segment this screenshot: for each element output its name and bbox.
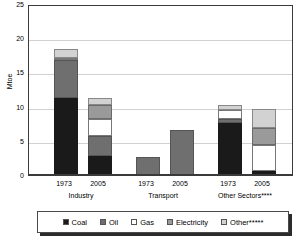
x-label-transport-2005: 2005 <box>160 180 200 187</box>
segment-electricity <box>88 105 112 119</box>
plot-area <box>28 5 293 176</box>
legend-label-gas: Gas <box>140 218 154 227</box>
legend-label-coal: Coal <box>72 218 87 227</box>
bar-series-container <box>29 6 292 175</box>
segment-gas <box>252 145 276 171</box>
legend-swatch-gas-icon <box>131 219 137 225</box>
legend-item-coal[interactable]: Coal <box>63 218 87 227</box>
x-group-other-sectors: Other Sectors**** <box>190 192 300 199</box>
segment-gas <box>54 58 78 61</box>
segment-oil <box>136 157 160 175</box>
legend-label-other: Other***** <box>230 218 263 227</box>
segment-other <box>88 98 112 105</box>
legend-label-oil: Oil <box>109 218 118 227</box>
legend-item-oil[interactable]: Oil <box>100 218 118 227</box>
legend-item-electricity[interactable]: Electricity <box>167 218 208 227</box>
legend-swatch-coal-icon <box>63 219 69 225</box>
legend-swatch-oil-icon <box>100 219 106 225</box>
segment-oil <box>218 119 242 123</box>
legend-item-other[interactable]: Other***** <box>221 218 263 227</box>
segment-coal <box>88 156 112 175</box>
y-tick-15: 15 <box>4 69 24 76</box>
x-axis-line <box>29 174 292 176</box>
y-tick-25: 25 <box>4 1 24 8</box>
segment-other <box>252 109 276 128</box>
legend-label-electricity: Electricity <box>176 218 208 227</box>
y-tick-0: 0 <box>4 172 24 179</box>
segment-other <box>218 105 242 110</box>
segment-gas <box>218 110 242 119</box>
segment-other <box>54 49 78 58</box>
segment-electricity <box>252 128 276 145</box>
legend-swatch-electricity-icon <box>167 219 173 225</box>
x-label-other-2005: 2005 <box>242 180 282 187</box>
legend-item-gas[interactable]: Gas <box>131 218 154 227</box>
segment-coal <box>54 98 78 175</box>
stacked-bar-chart: Mtoe 0 5 10 15 20 25 1973 2005 1973 2005… <box>0 0 301 244</box>
segment-oil <box>170 130 194 175</box>
segment-oil <box>88 136 112 156</box>
segment-oil <box>54 60 78 97</box>
legend-swatch-other-icon <box>221 219 227 225</box>
segment-gas <box>88 119 112 136</box>
segment-coal <box>218 123 242 175</box>
x-label-industry-2005: 2005 <box>78 180 118 187</box>
legend: CoalOilGasElectricityOther***** <box>37 211 289 233</box>
y-tick-5: 5 <box>4 138 24 145</box>
y-tick-10: 10 <box>4 104 24 111</box>
y-tick-20: 20 <box>4 35 24 42</box>
